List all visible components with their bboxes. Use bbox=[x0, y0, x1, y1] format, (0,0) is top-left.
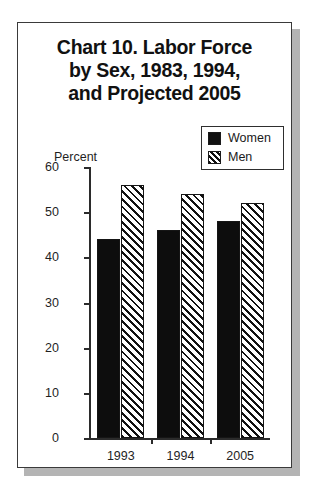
bar-men-1993 bbox=[121, 185, 144, 438]
y-tick-label: 30 bbox=[45, 296, 59, 310]
x-axis-label-2005: 2005 bbox=[226, 449, 254, 463]
x-axis-label-1994: 1994 bbox=[167, 449, 195, 463]
y-tick-label: 20 bbox=[45, 341, 59, 355]
x-axis-label-1993: 1993 bbox=[107, 449, 135, 463]
y-tick-mark bbox=[84, 303, 91, 305]
y-tick-label: 50 bbox=[45, 205, 59, 219]
bar-group-1994 bbox=[151, 167, 211, 438]
y-tick-label: 60 bbox=[45, 160, 59, 174]
bar-men-1994 bbox=[181, 194, 204, 438]
bar-women-2005 bbox=[217, 221, 240, 438]
y-tick-mark bbox=[84, 212, 91, 214]
chart-card: Chart 10. Labor Force by Sex, 1983, 1994… bbox=[17, 22, 292, 468]
chart-figure: Chart 10. Labor Force by Sex, 1983, 1994… bbox=[0, 0, 312, 494]
solid-black-swatch-icon bbox=[208, 132, 221, 145]
bar-men-2005 bbox=[241, 203, 264, 438]
x-axis-line bbox=[89, 438, 270, 440]
bar-women-1994 bbox=[157, 230, 180, 438]
x-tick-mark bbox=[210, 438, 212, 444]
y-tick-label: 0 bbox=[52, 431, 59, 445]
page-title: Chart 10. Labor Force by Sex, 1983, 1994… bbox=[18, 36, 291, 105]
y-tick-mark bbox=[84, 167, 91, 169]
bar-women-1993 bbox=[97, 239, 120, 438]
y-tick-mark bbox=[84, 393, 91, 395]
y-tick-mark bbox=[84, 257, 91, 259]
bar-group-1993 bbox=[91, 167, 151, 438]
bars-container bbox=[91, 167, 270, 438]
x-tick-mark bbox=[151, 438, 153, 444]
title-line-3: and Projected 2005 bbox=[24, 82, 285, 105]
legend-label-women: Women bbox=[228, 132, 271, 145]
title-line-2: by Sex, 1983, 1994, bbox=[24, 59, 285, 82]
legend-item-women: Women bbox=[208, 132, 278, 145]
plot-area: 0102030405060 199319942005 bbox=[63, 161, 270, 444]
y-tick-mark bbox=[84, 438, 91, 440]
y-tick-mark bbox=[84, 348, 91, 350]
bar-group-2005 bbox=[210, 167, 270, 438]
title-line-1: Chart 10. Labor Force bbox=[24, 36, 285, 59]
y-tick-label: 10 bbox=[45, 386, 59, 400]
y-tick-label: 40 bbox=[45, 250, 59, 264]
